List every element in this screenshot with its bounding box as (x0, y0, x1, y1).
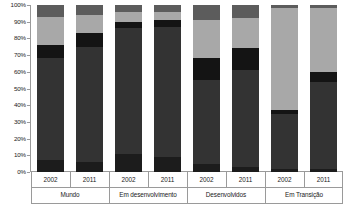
x-axis-divider (226, 172, 227, 187)
bar-segment-segment-2 (232, 70, 259, 167)
bar-segment-segment-5 (310, 5, 337, 8)
bar-em-transição-2011[interactable] (310, 5, 337, 172)
x-axis-year-label: 2002 (31, 172, 70, 187)
bar-segment-segment-3 (37, 45, 64, 58)
x-axis-group-label: Mundo (31, 187, 109, 203)
bar-segment-segment-4 (37, 17, 64, 45)
bars-layer (31, 5, 343, 172)
bar-segment-segment-5 (115, 5, 142, 12)
bar-segment-segment-4 (115, 12, 142, 22)
bar-segment-segment-3 (271, 110, 298, 113)
bar-segment-segment-3 (232, 48, 259, 70)
bar-segment-segment-4 (271, 8, 298, 110)
bar-segment-segment-1 (154, 157, 181, 172)
x-axis-year-label: 2002 (265, 172, 304, 187)
x-axis-divider (70, 172, 71, 187)
bar-segment-segment-5 (37, 5, 64, 17)
bar-segment-segment-4 (193, 20, 220, 58)
x-axis-divider (148, 172, 149, 187)
x-axis-year-label: 2011 (70, 172, 109, 187)
bar-segment-segment-4 (76, 15, 103, 33)
bar-segment-segment-3 (310, 72, 337, 82)
x-axis-right-edge (342, 172, 343, 203)
bar-segment-segment-2 (76, 47, 103, 162)
bar-segment-segment-2 (37, 58, 64, 160)
x-axis-year-label: 2011 (148, 172, 187, 187)
y-axis-tick-label: 50% (14, 85, 26, 91)
bar-mundo-2002[interactable] (37, 5, 64, 172)
y-axis-tick-label: 100% (11, 2, 26, 8)
y-axis-tick-mark (27, 172, 30, 173)
y-axis-tick-label: 60% (14, 69, 26, 75)
y-axis-tick-label: 10% (14, 152, 26, 158)
bar-segment-segment-3 (193, 58, 220, 80)
bar-segment-segment-2 (115, 28, 142, 153)
y-axis-tick-label: 20% (14, 135, 26, 141)
stacked-bar-chart: 0%10%20%30%40%50%60%70%80%90%100% 200220… (0, 0, 347, 205)
bar-desenvolvidos-2011[interactable] (232, 5, 259, 172)
x-axis-year-label: 2002 (109, 172, 148, 187)
bar-segment-segment-2 (271, 114, 298, 169)
bar-segment-segment-4 (232, 18, 259, 48)
bar-mundo-2011[interactable] (76, 5, 103, 172)
y-axis-tick-label: 30% (14, 119, 26, 125)
y-axis-tick-label: 70% (14, 52, 26, 58)
bar-em-desenvolvimento-2002[interactable] (115, 5, 142, 172)
bar-desenvolvidos-2002[interactable] (193, 5, 220, 172)
bar-em-transição-2002[interactable] (271, 5, 298, 172)
x-axis-year-label: 2011 (226, 172, 265, 187)
y-axis-tick-label: 0% (17, 169, 26, 175)
y-axis-tick-label: 90% (14, 19, 26, 25)
bar-segment-segment-4 (310, 8, 337, 71)
bar-em-desenvolvimento-2011[interactable] (154, 5, 181, 172)
y-axis-tick-label: 40% (14, 102, 26, 108)
y-axis: 0%10%20%30%40%50%60%70%80%90%100% (0, 0, 30, 177)
bar-segment-segment-5 (193, 5, 220, 20)
x-axis-left-edge (31, 172, 32, 203)
x-axis: 20022011200220112002201120022011 MundoEm… (31, 172, 343, 205)
bar-segment-segment-4 (154, 12, 181, 20)
bar-segment-segment-5 (232, 5, 259, 18)
bar-segment-segment-2 (154, 27, 181, 157)
x-axis-year-label: 2002 (187, 172, 226, 187)
bar-segment-segment-5 (154, 5, 181, 12)
x-axis-divider (304, 172, 305, 187)
bar-segment-segment-2 (310, 82, 337, 169)
x-axis-group-label: Em desenvolvimento (109, 187, 187, 203)
bar-segment-segment-5 (76, 5, 103, 15)
y-axis-tick-label: 80% (14, 35, 26, 41)
x-axis-group-label: Desenvolvidos (187, 187, 265, 203)
bar-segment-segment-5 (271, 5, 298, 8)
bar-segment-segment-3 (76, 33, 103, 46)
bar-segment-segment-1 (76, 162, 103, 172)
x-axis-rule (31, 187, 343, 188)
bar-segment-segment-1 (115, 154, 142, 172)
bar-segment-segment-3 (154, 20, 181, 27)
bar-segment-segment-3 (115, 22, 142, 29)
bar-segment-segment-1 (37, 160, 64, 172)
bar-segment-segment-2 (193, 80, 220, 164)
x-axis-bottom-rule (31, 203, 343, 204)
x-axis-year-label: 2011 (304, 172, 343, 187)
x-axis-group-label: Em Transição (265, 187, 343, 203)
bar-segment-segment-1 (193, 164, 220, 172)
